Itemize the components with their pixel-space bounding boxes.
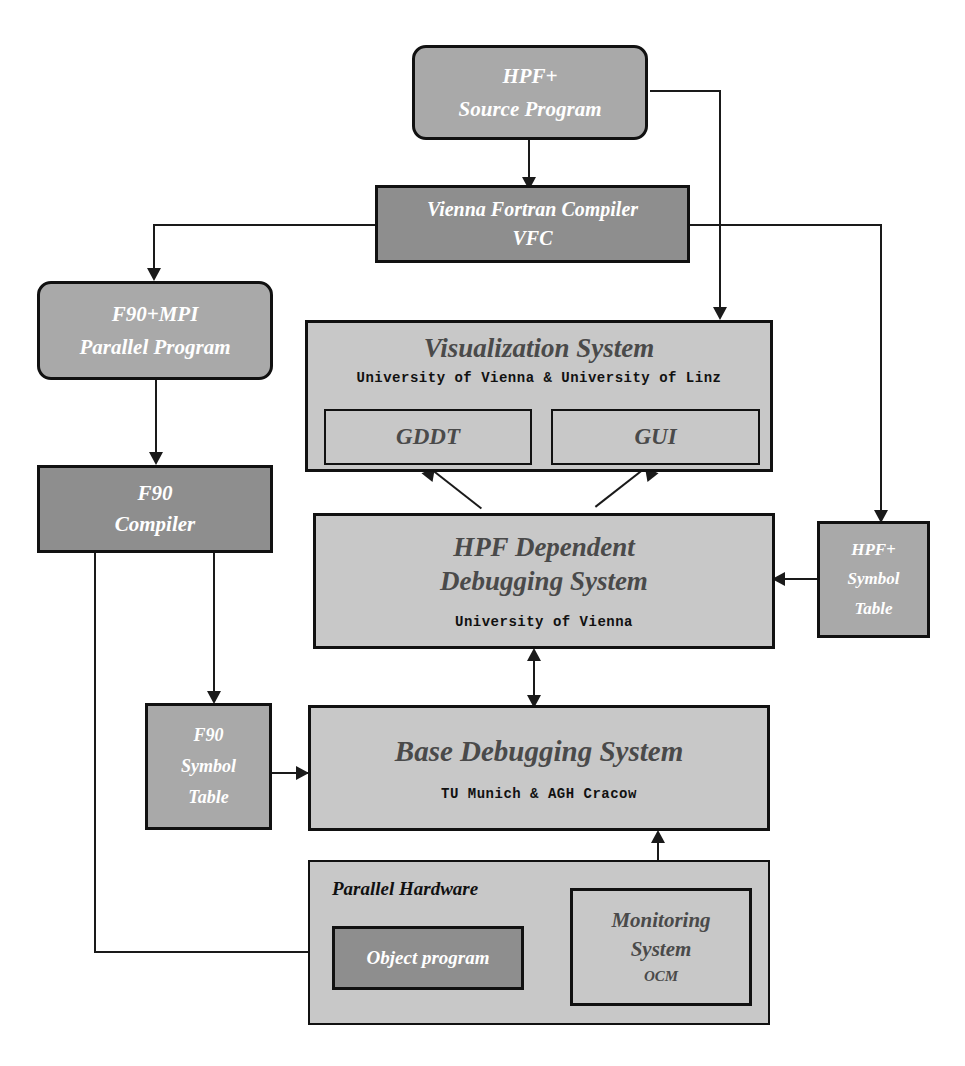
node-hpf-source-program-line1: HPF+ [502, 64, 557, 89]
edge-hpfsource-vfc-vertical [528, 138, 530, 180]
edge-f90compiler-objprog-vertical [94, 550, 96, 952]
node-hpf-symbol-table-line1: HPF+ [851, 540, 896, 560]
node-hpf-dependent-debugging-system[interactable]: HPF Dependent Debugging System Universit… [313, 513, 775, 649]
node-object-program[interactable]: Object program [332, 926, 524, 990]
edge-vfc-f90mpi-horizontal [153, 224, 375, 226]
node-visualization-system-subtitle: University of Vienna & University of Lin… [357, 370, 722, 387]
node-vienna-fortran-compiler-line2: VFC [512, 227, 552, 251]
node-f90-symbol-table-line2: Symbol [181, 756, 236, 777]
edge-basedbg-monitoring-arrowhead-up [651, 830, 665, 843]
edge-f90compiler-f90sym-vertical [213, 550, 215, 695]
edge-hpfdep-basedbg-arrowhead-up [527, 648, 541, 661]
node-object-program-label: Object program [367, 947, 490, 969]
node-f90mpi-line1: F90+MPI [112, 302, 199, 327]
node-visualization-system[interactable]: Visualization System University of Vienn… [305, 320, 773, 472]
edge-hpfsource-vis-vertical [719, 90, 721, 310]
node-f90-symbol-table-line1: F90 [193, 725, 223, 746]
node-hpf-source-program[interactable]: HPF+ Source Program [412, 45, 648, 140]
node-monitoring-system[interactable]: Monitoring System OCM [570, 888, 752, 1006]
edge-f90mpi-f90compiler-vertical [155, 380, 157, 456]
edge-f90compiler-objprog-horizontal [94, 951, 330, 953]
node-hpf-symbol-table-line2: Symbol [848, 569, 900, 589]
node-f90-compiler-line1: F90 [137, 481, 172, 506]
node-f90-compiler[interactable]: F90 Compiler [37, 465, 273, 553]
node-hpf-dep-subtitle: University of Vienna [455, 614, 633, 631]
edge-vfc-f90mpi-vertical [153, 224, 155, 272]
edge-hpfsource-vis-arrowhead [713, 307, 727, 320]
edge-hpfsource-vis-horizontal [650, 90, 720, 92]
node-monitoring-system-subtitle: OCM [644, 968, 678, 986]
node-base-debugging-system-title: Base Debugging System [395, 734, 683, 768]
edge-f90mpi-f90compiler-arrowhead [149, 452, 163, 465]
node-monitoring-system-line1: Monitoring [611, 908, 710, 933]
node-gddt-label: GDDT [396, 423, 460, 450]
edge-vfc-hpfsym-vertical [880, 224, 882, 514]
node-hpf-dep-line1: HPF Dependent [453, 532, 635, 564]
node-monitoring-system-line2: System [631, 937, 692, 962]
node-gui[interactable]: GUI [551, 409, 760, 465]
node-vienna-fortran-compiler[interactable]: Vienna Fortran Compiler VFC [375, 185, 690, 263]
node-f90-symbol-table-line3: Table [188, 787, 228, 808]
edge-vfc-hpfsym-horizontal [690, 224, 882, 226]
node-vienna-fortran-compiler-line1: Vienna Fortran Compiler [427, 198, 638, 222]
node-visualization-system-title: Visualization System [424, 333, 654, 365]
node-f90mpi-parallel-program[interactable]: F90+MPI Parallel Program [37, 281, 273, 380]
node-hpf-dep-line2: Debugging System [440, 566, 648, 598]
node-hpf-source-program-line2: Source Program [459, 97, 602, 122]
edge-vfc-f90mpi-arrowhead [147, 268, 161, 281]
node-f90mpi-line2: Parallel Program [79, 335, 230, 360]
node-hpf-symbol-table[interactable]: HPF+ Symbol Table [817, 521, 930, 638]
node-f90-compiler-line2: Compiler [115, 512, 196, 537]
node-gui-label: GUI [634, 423, 676, 450]
node-parallel-hardware-label: Parallel Hardware [332, 878, 478, 900]
diagram-canvas: HPF+ Source Program Vienna Fortran Compi… [0, 0, 965, 1066]
node-base-debugging-system[interactable]: Base Debugging System TU Munich & AGH Cr… [308, 705, 770, 831]
node-f90-symbol-table[interactable]: F90 Symbol Table [145, 703, 272, 830]
node-gddt[interactable]: GDDT [324, 409, 532, 465]
node-base-debugging-system-subtitle: TU Munich & AGH Cracow [441, 786, 637, 803]
node-hpf-symbol-table-line3: Table [854, 599, 892, 619]
node-parallel-hardware[interactable]: Parallel Hardware Object program Monitor… [308, 860, 770, 1025]
